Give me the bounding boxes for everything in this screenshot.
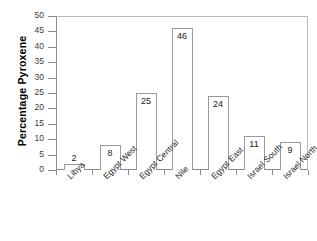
x-axis-tick	[56, 170, 57, 175]
y-axis-tick-label: 25	[35, 87, 48, 98]
y-axis-tick: 5	[48, 155, 56, 156]
y-axis-tick: 15	[48, 124, 56, 125]
x-axis-tick	[236, 170, 237, 175]
bar-value-label: 46	[173, 31, 192, 41]
y-axis-tick-label: 45	[35, 25, 48, 36]
y-axis-tick: 50	[48, 16, 56, 17]
y-axis-tick: 45	[48, 31, 56, 32]
y-axis-tick: 30	[48, 78, 56, 79]
bar-value-label: 25	[137, 96, 156, 106]
x-axis-tick	[200, 170, 201, 175]
y-axis-tick-label: 5	[39, 149, 48, 160]
y-axis-tick: 40	[48, 47, 56, 48]
y-axis-tick-label: 50	[35, 10, 48, 21]
x-axis-tick	[308, 170, 309, 175]
y-axis-tick-label: 10	[35, 133, 48, 144]
y-axis-tick: 25	[48, 93, 56, 94]
x-axis-tick	[272, 170, 273, 175]
y-axis-tick: 0	[48, 170, 56, 171]
x-axis-tick	[164, 170, 165, 175]
y-axis-tick-label: 20	[35, 102, 48, 113]
bar-value-label: 24	[209, 99, 228, 109]
x-axis-tick	[92, 170, 93, 175]
y-axis-tick-label: 40	[35, 41, 48, 52]
bar-value-label: 11	[245, 139, 264, 149]
y-axis-tick-label: 15	[35, 118, 48, 129]
y-axis-tick-label: 35	[35, 56, 48, 67]
y-axis-tick-label: 0	[39, 164, 48, 175]
y-axis-title: Percentage Pyroxene	[16, 11, 28, 171]
y-axis-tick: 10	[48, 139, 56, 140]
pyroxene-bar-chart: Percentage Pyroxene 50454035302520151050…	[0, 0, 317, 241]
bar-value-label: 9	[281, 145, 300, 155]
y-axis-tick: 20	[48, 108, 56, 109]
y-axis-tick-label: 30	[35, 72, 48, 83]
x-axis-tick	[128, 170, 129, 175]
y-axis-tick: 35	[48, 62, 56, 63]
